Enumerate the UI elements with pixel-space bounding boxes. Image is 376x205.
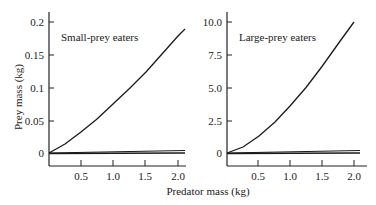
- y-axis-label: Prey mass (kg): [12, 64, 25, 130]
- right-ytick-label: 2.5: [208, 115, 222, 127]
- right-xtick-label: 1.5: [315, 170, 329, 182]
- figure: 0.2 0.15 0.1 0.05 0 0.5 1.0 1.5 2.0 Smal…: [0, 0, 376, 205]
- right-baseline-line: [227, 153, 360, 154]
- left-ytick-label: 0.1: [30, 82, 44, 94]
- left-panel-title: Small-prey eaters: [61, 31, 138, 43]
- right-xtick-label: 2.0: [347, 170, 361, 182]
- left-xtick-label: 1.0: [106, 170, 120, 182]
- right-ytick-label: 10.0: [203, 16, 223, 28]
- left-upper-curve: [49, 29, 185, 153]
- left-xtick-label: 0.5: [74, 170, 88, 182]
- right-panel: 10.0 7.5 5.0 2.5 0 0.5 1.0 1.5 2.0 Large…: [203, 12, 367, 182]
- right-panel-title: Large-prey eaters: [239, 31, 316, 43]
- left-xtick-label: 1.5: [138, 170, 152, 182]
- left-ytick-label: 0.15: [25, 49, 45, 61]
- right-ytick-label: 0: [217, 147, 223, 159]
- left-ytick-label: 0.2: [30, 16, 44, 28]
- left-baseline-line: [49, 153, 185, 154]
- x-axis-label: Predator mass (kg): [166, 185, 249, 198]
- left-xtick-label: 2.0: [171, 170, 185, 182]
- right-ytick-label: 5.0: [208, 82, 222, 94]
- left-ytick-label: 0: [39, 147, 45, 159]
- right-ytick-label: 7.5: [208, 49, 222, 61]
- left-panel: 0.2 0.15 0.1 0.05 0 0.5 1.0 1.5 2.0 Smal…: [12, 12, 186, 182]
- left-ytick-label: 0.05: [25, 115, 45, 127]
- right-xtick-label: 0.5: [251, 170, 265, 182]
- right-xtick-label: 1.0: [283, 170, 297, 182]
